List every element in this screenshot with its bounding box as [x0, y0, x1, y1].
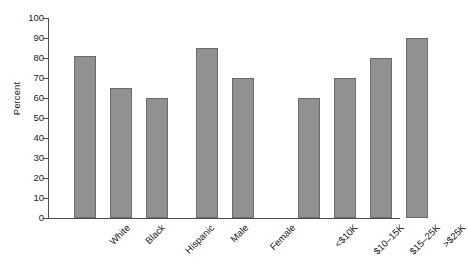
x-axis-tick-label: Hispanic [183, 222, 217, 256]
y-axis-tick-label: 70 [33, 72, 44, 83]
y-axis-tick-label: 80 [33, 52, 44, 63]
y-axis-tick-label: 40 [33, 132, 44, 143]
y-axis-tick-label: 50 [33, 112, 44, 123]
bar [232, 78, 254, 218]
y-axis-tick-label: 100 [28, 12, 44, 23]
x-axis-tick-label: White [107, 222, 132, 247]
y-axis-title: Percent [11, 59, 22, 139]
y-axis-tick-label: 60 [33, 92, 44, 103]
y-axis-tick-label: 20 [33, 172, 44, 183]
x-axis-line [48, 218, 400, 219]
bar [334, 78, 356, 218]
y-axis-tick-label: 30 [33, 152, 44, 163]
y-axis-tick-label: 0 [39, 212, 44, 223]
x-axis-tick-label: $15–25K [407, 222, 442, 257]
bar [146, 98, 168, 218]
y-axis-tick-label: 90 [33, 32, 44, 43]
plot-area: 0102030405060708090100 WhiteBlackHispani… [48, 18, 400, 218]
bar [110, 88, 132, 218]
x-axis-tick-label: $10–15K [371, 222, 406, 257]
bar [74, 56, 96, 218]
x-axis-tick-label: Female [267, 222, 297, 252]
x-axis-tick-label: >$25K [440, 222, 467, 249]
x-axis-tick-label: Black [143, 222, 167, 246]
y-axis-line [48, 18, 49, 218]
bar [298, 98, 320, 218]
bar [370, 58, 392, 218]
x-axis-tick-label: Male [228, 222, 250, 244]
x-axis-tick-label: <$10K [332, 222, 359, 249]
bar [196, 48, 218, 218]
bar [406, 38, 428, 218]
y-axis-tick-label: 10 [33, 192, 44, 203]
